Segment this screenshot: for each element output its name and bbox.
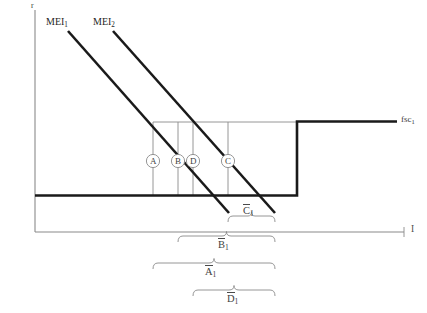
fsc-label-text: fsc xyxy=(401,114,412,124)
brace-b-label-text: B xyxy=(218,238,225,250)
mei1-label-text: MEI xyxy=(46,16,64,27)
mei2-label-text: MEI xyxy=(93,16,111,27)
point-a-letter: A xyxy=(150,157,157,166)
brace-a-label-sub: 1 xyxy=(213,270,217,279)
point-d-letter: D xyxy=(190,157,197,166)
fsc-label: fsc1 xyxy=(401,115,415,124)
brace-a-label-text: A xyxy=(205,265,213,277)
point-b-letter: B xyxy=(175,157,181,166)
brace-c-label-sub: 1 xyxy=(250,209,254,218)
point-c-letter: C xyxy=(225,157,231,166)
mei1-label-sub: 1 xyxy=(64,21,68,29)
brace-b-label-sub: 1 xyxy=(225,243,229,252)
mei1-label: MEI1 xyxy=(46,17,68,27)
y-axis-label: r xyxy=(31,2,34,10)
brace-c-label-text: C xyxy=(243,204,250,216)
brace-c-label: C1 xyxy=(243,204,254,217)
x-axis-label: I xyxy=(411,225,414,235)
brace-d-label-sub: 1 xyxy=(235,297,239,306)
brace-d-label-text: D xyxy=(227,292,235,304)
mei2-label-sub: 2 xyxy=(111,21,115,29)
mei2-label: MEI2 xyxy=(93,17,115,27)
brace-a-label: A1 xyxy=(205,265,216,278)
brace-d-label: D1 xyxy=(227,292,238,305)
brace-b-label: B1 xyxy=(218,238,229,251)
fsc-step-curve xyxy=(35,122,397,196)
fsc-label-sub: 1 xyxy=(412,118,415,125)
mei-fsc-diagram: r I MEI1 MEI2 fsc1 A B D C C1 B1 A1 D1 xyxy=(0,0,427,313)
